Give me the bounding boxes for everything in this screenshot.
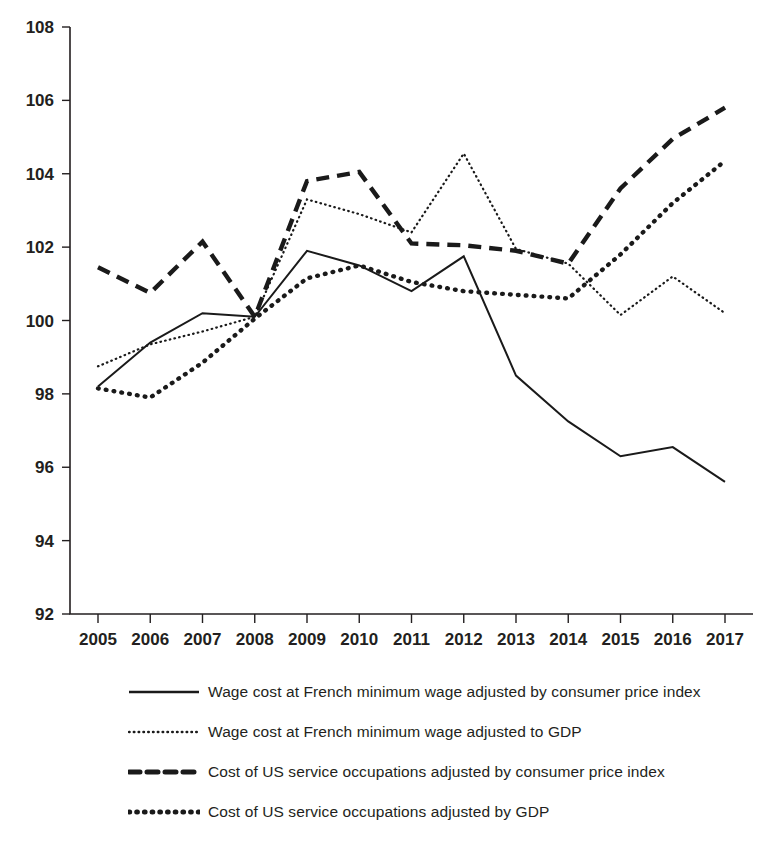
y-tick-label: 106 xyxy=(26,91,54,110)
y-tick-label: 102 xyxy=(26,238,54,257)
legend-item-label: Wage cost at French minimum wage adjuste… xyxy=(208,723,582,741)
legend-line-swatch xyxy=(128,765,200,779)
axis-lines xyxy=(70,27,753,614)
legend-item[interactable]: Wage cost at French minimum wage adjuste… xyxy=(128,712,748,752)
x-tick-label: 2014 xyxy=(549,630,587,649)
y-tick-label: 98 xyxy=(35,385,54,404)
x-tick-label: 2011 xyxy=(393,630,430,649)
legend-item-label: Wage cost at French minimum wage adjuste… xyxy=(208,683,701,701)
x-tick-label: 2010 xyxy=(340,630,378,649)
legend-line-swatch xyxy=(128,685,200,699)
series-line-0 xyxy=(98,251,725,482)
x-tick-label: 2013 xyxy=(497,630,535,649)
y-tick-label: 92 xyxy=(35,605,54,624)
x-tick-label: 2009 xyxy=(288,630,326,649)
series-line-2 xyxy=(98,108,725,317)
x-tick-label: 2006 xyxy=(131,630,169,649)
y-tick-label: 100 xyxy=(26,312,54,331)
y-tick-label: 108 xyxy=(26,18,54,37)
line-chart: 92949698100102104106108 2005200620072008… xyxy=(0,0,781,660)
legend-item[interactable]: Wage cost at French minimum wage adjuste… xyxy=(128,672,748,712)
legend-item[interactable]: Cost of US service occupations adjusted … xyxy=(128,752,748,792)
x-tick-label: 2012 xyxy=(445,630,483,649)
series-lines xyxy=(98,108,725,482)
x-tick-label: 2005 xyxy=(79,630,117,649)
legend-item-label: Cost of US service occupations adjusted … xyxy=(208,763,665,781)
legend-line-swatch xyxy=(128,805,200,819)
x-tick-label: 2016 xyxy=(654,630,692,649)
chart-page: 92949698100102104106108 2005200620072008… xyxy=(0,0,781,842)
series-line-3 xyxy=(98,161,725,398)
x-axis-ticks: 2005200620072008200920102011201220132014… xyxy=(79,614,744,649)
chart-legend: Wage cost at French minimum wage adjuste… xyxy=(128,672,748,832)
legend-item[interactable]: Cost of US service occupations adjusted … xyxy=(128,792,748,832)
legend-item-label: Cost of US service occupations adjusted … xyxy=(208,803,549,821)
legend-line-swatch xyxy=(128,725,200,739)
x-tick-label: 2007 xyxy=(184,630,222,649)
y-tick-label: 96 xyxy=(35,458,54,477)
x-tick-label: 2008 xyxy=(236,630,274,649)
x-tick-label: 2015 xyxy=(602,630,640,649)
series-line-1 xyxy=(98,154,725,367)
y-tick-label: 104 xyxy=(26,165,55,184)
y-axis-ticks: 92949698100102104106108 xyxy=(26,18,70,624)
x-tick-label: 2017 xyxy=(706,630,744,649)
y-tick-label: 94 xyxy=(35,532,54,551)
